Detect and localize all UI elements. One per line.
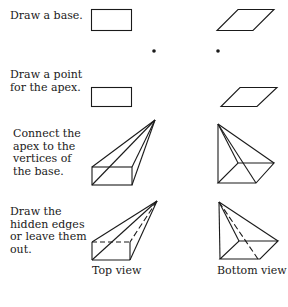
pyramid-construction-diagram — [0, 0, 288, 307]
bottom-view-base-parallelogram-2 — [221, 88, 277, 107]
bottom-view-base-parallelogram-1 — [217, 10, 274, 31]
bottom-view-pyramid-hidden-edges — [219, 202, 278, 259]
bottom-view-caption: Bottom view — [217, 265, 287, 277]
top-view-pyramid-hidden-edges — [92, 201, 157, 260]
bottom-view-apex-dot — [216, 49, 220, 53]
bottom-view-pyramid-connected — [218, 124, 274, 183]
top-view-base-rect-1 — [92, 10, 132, 31]
top-view-base-rect-2 — [92, 88, 132, 107]
top-view-pyramid-connected — [92, 120, 155, 185]
top-view-caption: Top view — [92, 265, 141, 277]
top-view-apex-dot — [152, 49, 156, 53]
